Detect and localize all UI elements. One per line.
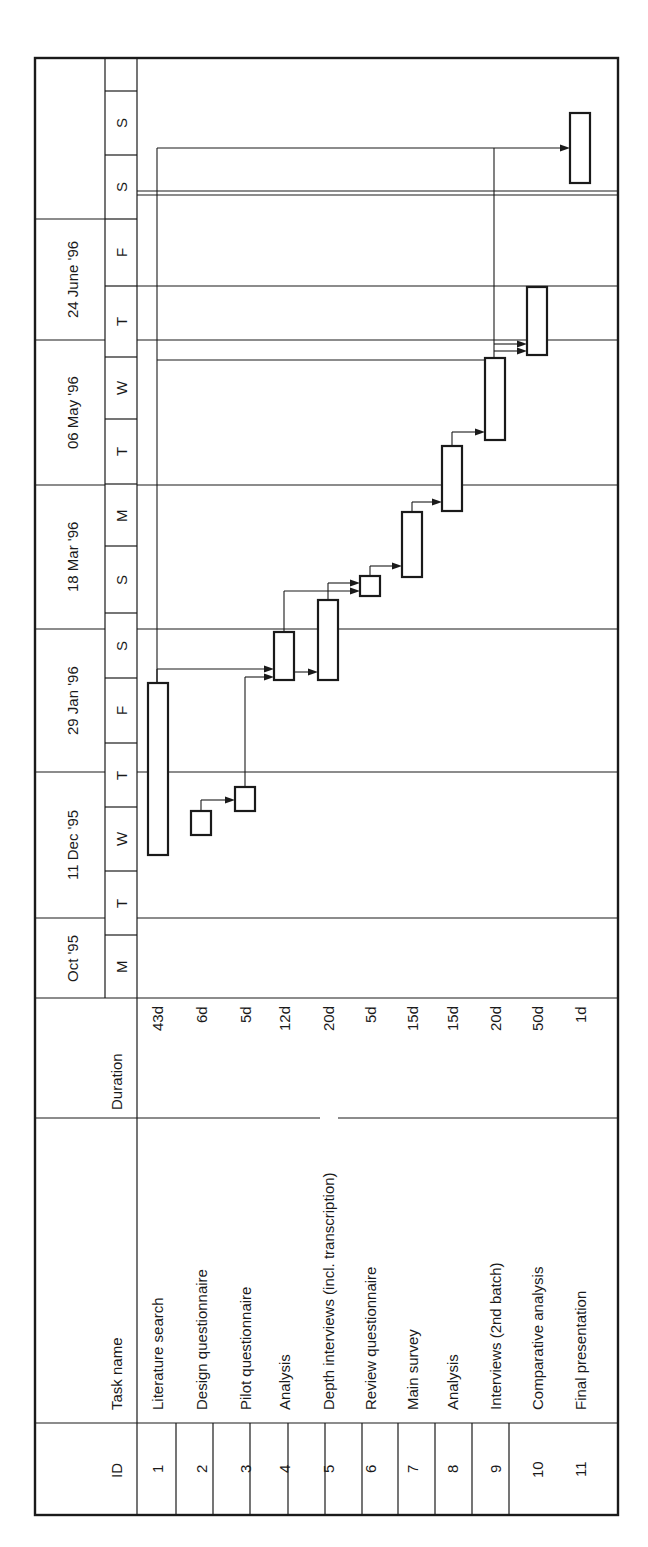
timescale-minor-label: W <box>114 381 129 395</box>
timescale-minor-label: S <box>114 118 129 128</box>
arrowhead-icon <box>264 666 274 673</box>
task-name: Interviews (2nd batch) <box>488 1262 503 1410</box>
timescale-major-label: Oct '95 <box>65 934 80 981</box>
timescale-minor-label: M <box>114 961 129 974</box>
task-bar-8 <box>442 446 462 511</box>
timescale-minor-label: F <box>114 706 129 715</box>
timescale-major-label: 29 Jan '96 <box>65 666 80 735</box>
task-id: 7 <box>405 1465 420 1473</box>
task-duration: 50d <box>530 1006 545 1031</box>
arrowhead-icon <box>560 145 570 152</box>
task-id: 2 <box>194 1465 209 1473</box>
task-id: 11 <box>573 1461 588 1477</box>
task-bar-6 <box>360 576 380 596</box>
task-id: 10 <box>530 1461 545 1478</box>
task-bar-4 <box>274 632 294 680</box>
task-bar-10 <box>527 287 547 355</box>
task-duration: 43d <box>150 1006 165 1031</box>
task-name: Main survey <box>405 1329 420 1410</box>
timescale-minor-label: T <box>114 317 129 326</box>
task-id: 9 <box>488 1465 503 1473</box>
arrowhead-icon <box>350 580 360 587</box>
task-id: 8 <box>445 1465 460 1473</box>
arrowhead-icon <box>517 341 527 348</box>
arrowhead-icon <box>517 348 527 355</box>
timescale-major-label: 11 Dec '95 <box>65 810 80 880</box>
task-bar-2 <box>191 811 211 835</box>
task-bar-3 <box>235 787 255 811</box>
divider-gap <box>320 1112 338 1124</box>
task-bar-9 <box>485 358 505 440</box>
gantt-chart: Oct '9511 Dec '9529 Jan '9618 Mar '9606 … <box>0 0 648 1547</box>
arrowhead-icon <box>264 674 274 681</box>
task-name: Final presentation <box>573 1291 588 1410</box>
arrowhead-icon <box>475 429 485 436</box>
task-id: 1 <box>150 1465 165 1473</box>
task-name: Analysis <box>277 1354 292 1410</box>
task-bar-7 <box>402 512 422 577</box>
task-duration: 1d <box>573 1006 588 1023</box>
task-bar-11 <box>570 113 590 183</box>
task-name: Pilot questionnaire <box>238 1287 253 1410</box>
task-name: Depth interviews (incl. transcription) <box>321 1172 336 1410</box>
task-duration: 6d <box>194 1006 209 1023</box>
timescale-major-label: 06 May '96 <box>65 376 80 449</box>
task-name: Design questionnaire <box>194 1269 209 1410</box>
task-name: Analysis <box>445 1354 460 1410</box>
arrowhead-icon <box>392 563 402 570</box>
task-duration: 20d <box>488 1006 503 1031</box>
timescale-minor-label: S <box>114 182 129 192</box>
task-duration: 5d <box>363 1006 378 1023</box>
timescale-minor-label: T <box>114 447 129 456</box>
timescale-minor-label: T <box>114 898 129 907</box>
task-duration: 20d <box>321 1006 336 1031</box>
task-duration: 15d <box>445 1006 460 1031</box>
timescale-minor-label: S <box>114 640 129 650</box>
task-duration: 15d <box>405 1006 420 1031</box>
task-id: 3 <box>238 1465 253 1473</box>
arrowhead-icon <box>225 797 235 804</box>
task-name: Review questionnaire <box>363 1267 378 1410</box>
timescale-major-label: 18 Mar '96 <box>65 522 80 592</box>
column-header-id: ID <box>109 1463 124 1478</box>
task-bar-1 <box>148 683 168 855</box>
task-name: Comparative analysis <box>530 1267 545 1410</box>
timescale-minor-label: T <box>114 770 129 779</box>
timescale-major-label: 24 June '96 <box>65 241 80 318</box>
task-id: 6 <box>363 1465 378 1473</box>
task-bar-5 <box>318 600 338 680</box>
arrowhead-icon <box>308 669 318 676</box>
task-name: Literature search <box>150 1297 165 1410</box>
arrowhead-icon <box>432 499 442 506</box>
timescale-minor-label: F <box>114 248 129 257</box>
timescale-minor-label: S <box>114 574 129 584</box>
column-header-duration: Duration <box>109 1053 124 1110</box>
task-id: 4 <box>277 1465 292 1473</box>
timescale-minor-label: M <box>114 509 129 522</box>
task-id: 5 <box>321 1465 336 1473</box>
column-header-task: Task name <box>109 1337 124 1410</box>
task-duration: 12d <box>277 1006 292 1031</box>
task-duration: 5d <box>238 1006 253 1023</box>
timescale-minor-label: W <box>114 832 129 846</box>
arrowhead-icon <box>350 588 360 595</box>
